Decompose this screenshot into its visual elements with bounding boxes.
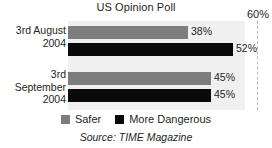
bar-value-september-more-dangerous: 45% bbox=[214, 88, 235, 100]
legend-item-safer: Safer bbox=[61, 113, 101, 125]
legend-label-more-dangerous: More Dangerous bbox=[129, 113, 211, 125]
chart-container: US Opinion Poll 60% 3rd August 2004 3rd … bbox=[0, 0, 272, 148]
x-axis-max-label: 60% bbox=[247, 8, 269, 20]
legend-item-more-dangerous: More Dangerous bbox=[115, 113, 211, 125]
bar-september-more-dangerous bbox=[68, 89, 211, 102]
bar-august-more-dangerous bbox=[68, 43, 233, 56]
bar-value-august-more-dangerous: 52% bbox=[236, 42, 257, 54]
legend-swatch-safer bbox=[61, 115, 70, 124]
bar-september-safer bbox=[68, 72, 211, 85]
bar-value-september-safer: 45% bbox=[214, 71, 235, 83]
chart-title: US Opinion Poll bbox=[0, 1, 272, 13]
category-label-august: 3rd August 2004 bbox=[0, 24, 66, 49]
bar-value-august-safer: 38% bbox=[191, 25, 212, 37]
bar-august-safer bbox=[68, 26, 188, 39]
category-label-september: 3rd September 2004 bbox=[0, 68, 66, 106]
chart-legend: Safer More Dangerous bbox=[0, 113, 272, 125]
chart-source: Source: TIME Magazine bbox=[0, 131, 272, 143]
gridline-60-percent bbox=[257, 21, 258, 110]
legend-label-safer: Safer bbox=[75, 113, 101, 125]
legend-swatch-more-dangerous bbox=[115, 115, 124, 124]
